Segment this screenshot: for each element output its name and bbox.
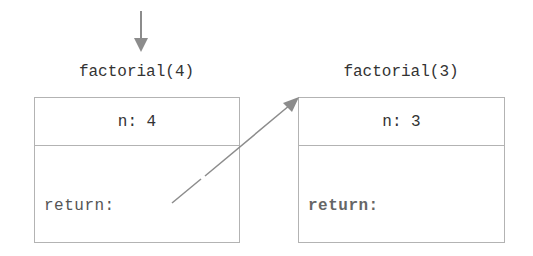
frame-body: return: n * factorial(n–1) [35, 146, 239, 256]
frame-title-factorial-4: factorial(4) [34, 63, 239, 81]
frame-body: return: n * factorial(n–1) [299, 146, 504, 256]
entry-arrow-icon [134, 11, 148, 52]
frame-title-factorial-3: factorial(3) [298, 63, 504, 81]
frame-param: n: 3 [299, 98, 504, 146]
return-label: return: [44, 196, 239, 216]
stack-frame-factorial-4: n: 4 return: n * factorial(n–1) [34, 97, 240, 243]
stack-frame-factorial-3: n: 3 return: n * factorial(n–1) [298, 97, 505, 243]
frame-param: n: 4 [35, 98, 239, 146]
return-label: return: [308, 196, 504, 216]
